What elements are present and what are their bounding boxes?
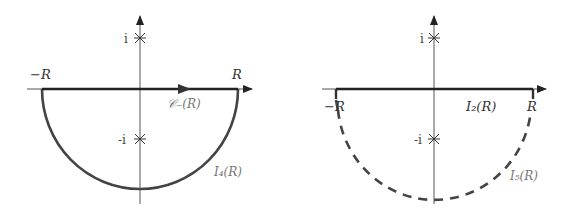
right-arc-label: I₅(R) <box>509 169 538 183</box>
right-panel: i -i −R R I₂(R) I₅(R) <box>322 16 546 204</box>
left-R-label: R <box>231 67 242 82</box>
contour-diagram-figure: i -i −R R 𝒞₋(R) I₄(R) <box>0 0 574 209</box>
right-pole-lower-label: -i <box>414 133 422 147</box>
left-pole-lower-label: -i <box>118 133 126 147</box>
left-segment-arrow-icon <box>178 84 191 94</box>
diagram-canvas: i -i −R R 𝒞₋(R) I₄(R) <box>0 0 574 209</box>
left-contour-label: 𝒞₋(R) <box>167 97 201 111</box>
left-minus-R-label: −R <box>30 67 51 82</box>
right-segment-label: I₂(R) <box>465 99 496 114</box>
right-minus-R-label: −R <box>324 99 345 114</box>
left-panel: i -i −R R 𝒞₋(R) I₄(R) <box>27 16 252 204</box>
right-R-label: R <box>526 99 537 114</box>
right-pole-upper-label: i <box>420 32 424 46</box>
left-pole-upper-label: i <box>124 32 128 46</box>
left-arc-label: I₄(R) <box>213 165 242 179</box>
